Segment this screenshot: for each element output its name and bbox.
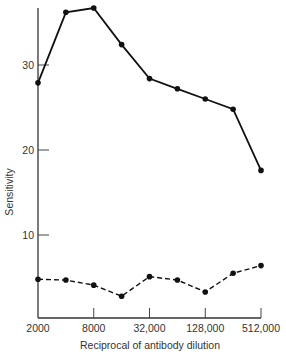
data-point-marker xyxy=(175,86,181,92)
data-point-marker xyxy=(35,276,41,282)
y-tick-label: 20 xyxy=(22,144,34,156)
sensitivity-line-chart: 102030 2000800032,000128,000512,000 Sens… xyxy=(0,0,286,356)
series-solid xyxy=(35,5,264,173)
data-point-marker xyxy=(202,96,208,102)
x-tick-label: 512,000 xyxy=(242,322,280,334)
data-point-marker xyxy=(119,42,125,48)
data-point-marker xyxy=(63,10,69,16)
series-layer xyxy=(35,5,264,299)
data-point-marker xyxy=(91,282,97,288)
x-tick-label: 2000 xyxy=(26,322,50,334)
data-point-marker xyxy=(230,106,236,112)
series-dashed xyxy=(35,263,264,299)
series-line xyxy=(38,266,261,297)
x-tick-label: 8000 xyxy=(82,322,106,334)
y-tick-label: 10 xyxy=(22,229,34,241)
data-point-marker xyxy=(230,270,236,276)
y-axis-ticks: 102030 xyxy=(22,59,49,241)
data-point-marker xyxy=(35,80,41,86)
data-point-marker xyxy=(91,5,97,11)
data-point-marker xyxy=(119,293,125,299)
data-point-marker xyxy=(258,168,264,174)
data-point-marker xyxy=(258,263,264,269)
series-line xyxy=(38,8,261,170)
y-axis-title: Sensitivity xyxy=(3,168,15,216)
data-point-marker xyxy=(147,76,153,82)
x-axis-ticks: 2000800032,000128,000512,000 xyxy=(26,308,280,334)
data-point-marker xyxy=(147,274,153,280)
axes xyxy=(38,8,261,318)
data-point-marker xyxy=(63,277,69,283)
x-tick-label: 32,000 xyxy=(133,322,165,334)
x-axis-title: Reciprocal of antibody dilution xyxy=(80,339,220,351)
data-point-marker xyxy=(175,277,181,283)
y-tick-label: 30 xyxy=(22,59,34,71)
x-tick-label: 128,000 xyxy=(186,322,224,334)
data-point-marker xyxy=(202,289,208,295)
